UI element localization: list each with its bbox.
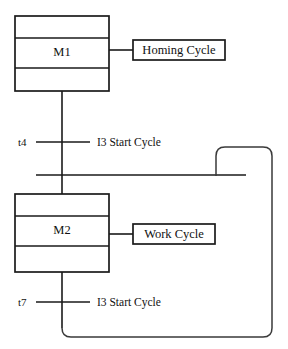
- step-block-m2[interactable]: M2: [15, 194, 109, 272]
- transition-t7[interactable]: t7 I3 Start Cycle: [18, 296, 161, 309]
- transition-t4-name: t4: [18, 136, 27, 148]
- transition-t4[interactable]: t4 I3 Start Cycle: [18, 136, 161, 149]
- feedback-loop-lower: [62, 328, 272, 337]
- transition-t7-name: t7: [18, 296, 27, 308]
- sfc-diagram: M1 Homing Cycle t4 I3 Start Cycle M2 Wor…: [0, 0, 288, 349]
- transition-t4-condition: I3 Start Cycle: [97, 136, 161, 149]
- transition-t7-condition: I3 Start Cycle: [97, 296, 161, 309]
- step-m1-label: M1: [53, 45, 70, 59]
- action-work-cycle-label: Work Cycle: [144, 227, 204, 241]
- action-box-work-cycle[interactable]: Work Cycle: [133, 224, 215, 244]
- action-box-homing-cycle[interactable]: Homing Cycle: [133, 40, 225, 60]
- action-homing-cycle-label: Homing Cycle: [142, 43, 216, 57]
- step-m2-label: M2: [53, 223, 70, 237]
- step-block-m1[interactable]: M1: [15, 16, 109, 91]
- sfc-diagram-canvas: M1 Homing Cycle t4 I3 Start Cycle M2 Wor…: [0, 0, 288, 349]
- feedback-loop-upper: [216, 147, 272, 328]
